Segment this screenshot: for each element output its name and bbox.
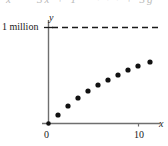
data-point — [135, 63, 140, 68]
data-point — [85, 88, 90, 93]
origin-marker — [46, 121, 51, 126]
data-point — [125, 67, 130, 72]
data-point — [55, 112, 60, 117]
x-tick-label-10: 10 — [134, 130, 144, 140]
data-point — [65, 103, 70, 108]
x-tick-label-0: 0 — [44, 130, 49, 140]
data-point-group — [55, 59, 152, 117]
scatter-plot-figure: x² − 3x + 1 − · · · + 3g y — [0, 0, 168, 146]
data-point — [115, 72, 120, 77]
data-point — [95, 82, 100, 87]
threshold-label: 1 million — [2, 22, 38, 32]
data-point — [147, 59, 152, 64]
y-axis-label: y — [49, 13, 53, 23]
data-point — [75, 95, 80, 100]
data-point — [105, 77, 110, 82]
x-axis-label: x — [159, 119, 163, 129]
